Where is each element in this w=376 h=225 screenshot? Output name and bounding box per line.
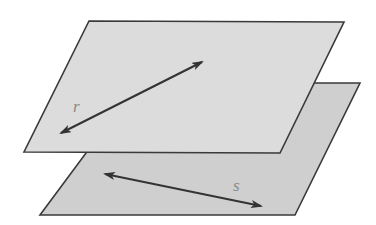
line-r-label: r <box>73 97 80 116</box>
parallel-planes-diagram: r s <box>0 0 376 225</box>
line-s-label: s <box>233 176 240 195</box>
